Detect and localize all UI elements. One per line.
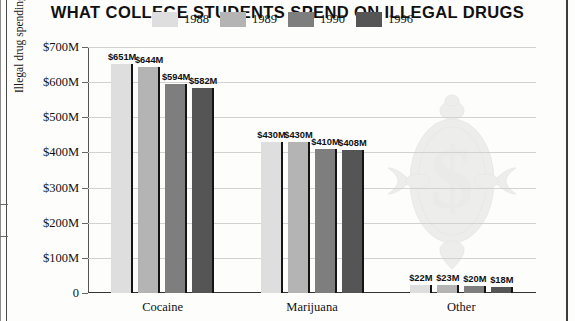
y-axis-tick-label: $700M bbox=[43, 40, 79, 55]
bar-fill bbox=[192, 88, 214, 293]
bar-fill bbox=[410, 285, 432, 293]
bar-value-label: $644M bbox=[135, 55, 163, 65]
bar[interactable]: $651M bbox=[111, 64, 133, 293]
bar[interactable]: $430M bbox=[261, 142, 283, 293]
y-axis-tick-label: $200M bbox=[43, 215, 79, 230]
x-axis-category-label: Marijuana bbox=[286, 300, 337, 315]
bar-fill bbox=[138, 67, 160, 293]
bar-fill bbox=[464, 286, 486, 293]
legend-item[interactable]: 1988 bbox=[152, 12, 209, 27]
y-axis-tick-label: $400M bbox=[43, 145, 79, 160]
y-axis-tick bbox=[82, 117, 88, 118]
chart-page: WHAT COLLEGE STUDENTS SPEND ON ILLEGAL D… bbox=[0, 0, 575, 321]
bar-fill bbox=[165, 84, 187, 293]
bar[interactable]: $644M bbox=[138, 67, 160, 293]
y-axis-tick bbox=[82, 188, 88, 189]
x-axis-category-label: Other bbox=[447, 300, 475, 315]
legend-swatch bbox=[220, 12, 246, 27]
bar-value-label: $594M bbox=[162, 72, 190, 82]
bar[interactable]: $410M bbox=[315, 149, 337, 293]
bar[interactable]: $594M bbox=[165, 84, 187, 293]
page-edge-left bbox=[6, 0, 7, 321]
bar-value-label: $18M bbox=[490, 275, 513, 285]
legend-label: 1996 bbox=[388, 12, 413, 27]
bar[interactable]: $20M bbox=[464, 286, 486, 293]
bar-value-label: $22M bbox=[409, 273, 432, 283]
bar-value-label: $20M bbox=[463, 274, 486, 284]
y-axis-tick bbox=[82, 47, 88, 48]
y-axis-tick bbox=[82, 258, 88, 259]
bar-fill bbox=[491, 287, 513, 293]
x-axis-category-label: Cocaine bbox=[142, 300, 183, 315]
plot-area: $ $700M$600M$500M$400M$300M$200M$100M0 $… bbox=[88, 47, 536, 293]
page-edge-tick bbox=[0, 204, 8, 205]
bar[interactable]: $23M bbox=[437, 285, 459, 293]
y-axis-tick bbox=[82, 223, 88, 224]
legend: 1988198919901996 bbox=[152, 12, 424, 27]
bar-value-label: $430M bbox=[284, 130, 312, 140]
page-edge-right bbox=[566, 0, 568, 321]
bar-fill bbox=[437, 285, 459, 293]
bar-fill bbox=[111, 64, 133, 293]
y-axis-title: Illegal drug spending in millions bbox=[13, 0, 25, 93]
bar-value-label: $430M bbox=[257, 130, 285, 140]
bar-fill bbox=[342, 150, 364, 293]
bar[interactable]: $18M bbox=[491, 287, 513, 293]
y-axis-tick-label: $600M bbox=[43, 75, 79, 90]
legend-label: 1990 bbox=[320, 12, 345, 27]
y-axis-tick bbox=[82, 82, 88, 83]
legend-label: 1988 bbox=[184, 12, 209, 27]
bar-value-label: $651M bbox=[108, 52, 136, 62]
gridline bbox=[88, 47, 536, 48]
y-axis-tick bbox=[82, 293, 88, 294]
bar[interactable]: $430M bbox=[288, 142, 310, 293]
y-axis-tick bbox=[82, 152, 88, 153]
bar[interactable]: $22M bbox=[410, 285, 432, 293]
legend-label: 1989 bbox=[252, 12, 277, 27]
legend-swatch bbox=[152, 12, 178, 27]
y-axis-tick-label: $300M bbox=[43, 180, 79, 195]
bar-fill bbox=[315, 149, 337, 293]
bar[interactable]: $408M bbox=[342, 150, 364, 293]
bar-fill bbox=[288, 142, 310, 293]
page-edge-outer bbox=[0, 0, 1, 321]
bar[interactable]: $582M bbox=[192, 88, 214, 293]
page-edge-tick bbox=[0, 236, 8, 237]
y-axis-tick-label: $100M bbox=[43, 250, 79, 265]
bar-fill bbox=[261, 142, 283, 293]
legend-item[interactable]: 1989 bbox=[220, 12, 277, 27]
bar-value-label: $408M bbox=[338, 138, 366, 148]
bar-value-label: $582M bbox=[189, 76, 217, 86]
bar-value-label: $23M bbox=[436, 273, 459, 283]
legend-swatch bbox=[288, 12, 314, 27]
bar-value-label: $410M bbox=[311, 137, 339, 147]
y-axis-tick-label: $500M bbox=[43, 110, 79, 125]
legend-item[interactable]: 1996 bbox=[356, 12, 413, 27]
legend-item[interactable]: 1990 bbox=[288, 12, 345, 27]
legend-swatch bbox=[356, 12, 382, 27]
y-axis-tick-label: 0 bbox=[73, 286, 79, 301]
